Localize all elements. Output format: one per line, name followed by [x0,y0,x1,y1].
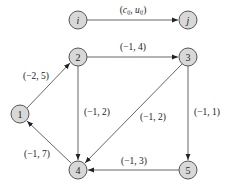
svg-text:4: 4 [76,165,81,176]
legend-edge-label: (cij, uij) [120,5,147,16]
edge-1-2 [27,63,70,108]
node-3: 3 [179,48,197,66]
svg-text:2: 2 [76,52,81,63]
edge-5-4-label: (−1, 3) [121,156,147,167]
node-2: 2 [69,48,87,66]
edge-4-1-label: (−1, 7) [24,149,50,160]
node-4: 4 [69,161,87,179]
legend-node-j: j [179,11,197,29]
svg-text:3: 3 [186,52,191,63]
edge-2-3-label: (−1, 4) [120,42,146,53]
svg-text:5: 5 [186,165,191,176]
edge-1-2-label: (−2, 5) [23,71,49,82]
svg-text:1: 1 [18,109,23,120]
edge-2-4-label: (−1, 2) [84,107,110,118]
edge-3-5-label: (−1, 1) [194,107,220,118]
edge-3-4-label: (−1, 2) [140,112,166,123]
node-1: 1 [11,105,29,123]
legend-node-i: i [69,11,87,29]
node-5: 5 [179,161,197,179]
network-diagram: (cij, uij) (−2, 5) (−1, 4) (−1, 2) (−1, … [0,0,233,191]
svg-text:i: i [77,15,80,26]
